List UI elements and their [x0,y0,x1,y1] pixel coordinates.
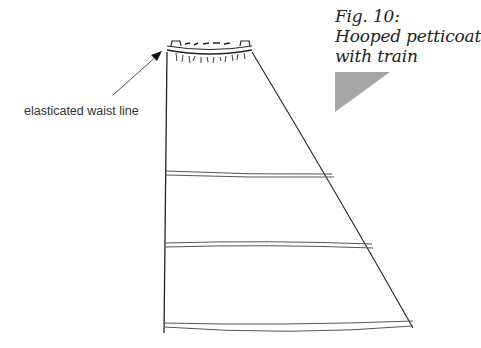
hem-line [164,321,413,331]
caption-line-3: with train [335,46,481,66]
annotation-arrow [113,51,162,95]
caption-line-1: Fig. 10: [335,6,481,26]
waist-line-label: elasticated waist line [24,104,139,118]
waistband [167,41,252,63]
accent-triangle [335,72,390,112]
hoop-line-1 [166,171,334,177]
petticoat-left-edge [164,52,167,333]
figure-caption: Fig. 10: Hooped petticoat with train [335,6,481,66]
petticoat-right-edge [252,52,413,328]
caption-line-2: Hooped petticoat [335,26,481,46]
hoop-line-2 [165,242,373,248]
